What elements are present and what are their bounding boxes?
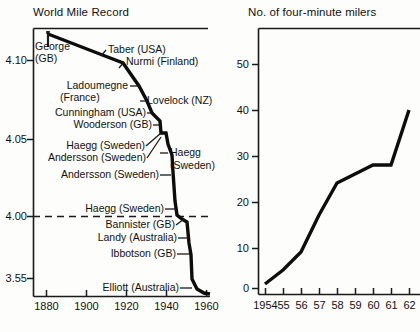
annotation-landy: Landy (Australia) [52,232,177,244]
annotation-george-line2: (GB) [35,53,57,65]
annotation-andersson-1: Andersson (Sweden) [10,152,146,164]
left-xtick-label-1880: 1880 [26,300,67,312]
right-ytick-label-40: 40 [222,104,249,116]
annotation-wooderson: Wooderson (GB) [38,119,152,131]
leader-andersson-1 [147,137,161,158]
left-ytick-label-4-10: 4.10 [0,54,27,66]
right-ytick-label-0: 0 [222,282,249,294]
right-ytick-label-30: 30 [222,150,249,162]
annotation-taber: Taber (USA) [108,44,166,56]
annotation-cunningham: Cunningham (USA) [24,107,146,119]
right-four-minute-milers-line [265,110,409,284]
left-ytick-label-4-00: 4.00 [0,210,27,222]
annotation-haegg-1: Haegg (Sweden) [28,140,145,152]
left-xtick-label-1940: 1940 [146,300,187,312]
left-ytick-label-3-55: 3.55 [0,272,27,284]
annotation-ibbotson: Ibbotson (GB) [66,248,176,260]
annotation-ladoumegne-line1: Ladoumegne [50,80,128,92]
left-ytick-label-4-05: 4.05 [0,133,27,145]
annotation-bannister: Bannister (GB) [62,219,175,231]
figure-two-panel-line-charts: World Mile Record [0,0,420,332]
leader-bannister [176,219,184,225]
annotation-ladoumegne-line2: (France) [60,92,100,104]
annotation-george-line1: George [35,41,70,53]
annotation-lovelock: Lovelock (NZ) [147,95,212,107]
right-ytick-label-20: 20 [222,196,249,208]
annotation-haegg-3: Haegg (Sweden) [46,203,164,215]
panel-world-mile-record: World Mile Record [0,0,212,332]
annotation-elliott: Elliott (Australia) [50,282,179,294]
annotation-andersson-2: Andersson (Sweden) [24,169,159,181]
panel-four-minute-milers: No. of four-minute milers [212,0,420,332]
annotation-nurmi: Nurmi (Finland) [126,56,198,68]
right-xtick-label-62: 62 [396,299,420,311]
left-xtick-label-1900: 1900 [66,300,107,312]
right-ytick-label-10: 10 [222,242,249,254]
right-ytick-label-50: 50 [222,58,249,70]
annotation-haegg-2-line2: (Sweden) [170,160,215,172]
left-xtick-label-1920: 1920 [106,300,147,312]
annotation-haegg-2-line1: Haegg [170,147,201,159]
